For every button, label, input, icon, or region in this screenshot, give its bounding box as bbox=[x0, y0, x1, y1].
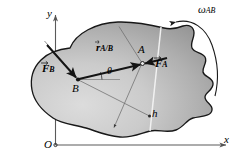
body-shape bbox=[31, 22, 213, 137]
omega-symbol: ω bbox=[198, 3, 206, 15]
force-label-FA-symbol: F bbox=[155, 58, 162, 69]
y-axis-label: y bbox=[47, 8, 52, 19]
vector-arrow-overbar-icon bbox=[41, 60, 48, 65]
vector-arrow-overbar-icon bbox=[154, 55, 161, 60]
origin-label: O bbox=[44, 139, 52, 150]
force-label-FB-symbol: F bbox=[42, 63, 49, 74]
position-label-r-symbol: r bbox=[96, 42, 100, 53]
mechanics-diagram bbox=[0, 0, 236, 164]
distance-label-h: h bbox=[152, 108, 158, 119]
x-axis-label: x bbox=[224, 134, 229, 145]
angle-label-theta: θ bbox=[107, 66, 112, 76]
force-label-FA: FA bbox=[155, 58, 168, 69]
point-marker-B bbox=[76, 77, 80, 81]
vector-arrow-overbar-icon bbox=[95, 39, 99, 44]
position-vector-label-rAB: rA/B bbox=[96, 42, 113, 53]
h-intersection-marker bbox=[148, 115, 151, 118]
point-label-B: B bbox=[72, 83, 79, 94]
rigid-body bbox=[31, 22, 213, 137]
angular-velocity-label: ωAB bbox=[198, 4, 215, 15]
point-marker-A bbox=[141, 62, 145, 66]
point-label-A: A bbox=[138, 44, 145, 55]
omega-subscript: AB bbox=[206, 6, 216, 15]
position-r-subscript: A/B bbox=[100, 44, 113, 53]
force-FB-subscript: B bbox=[49, 65, 54, 74]
force-label-FB: FB bbox=[42, 63, 55, 74]
force-FA-subscript: A bbox=[162, 60, 167, 69]
